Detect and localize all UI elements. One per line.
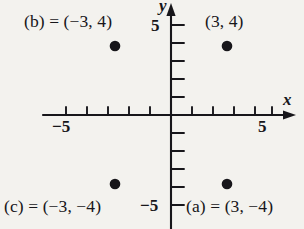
x-axis-ticks-negative xyxy=(66,107,150,115)
data-point-b xyxy=(110,41,121,52)
x-axis-tick-label-5: 5 xyxy=(258,118,267,135)
y-axis-ticks-negative xyxy=(171,133,184,205)
data-point-3-4 xyxy=(222,41,233,52)
point-label-c: (c) = (−3, −4) xyxy=(4,198,101,216)
x-axis-arrowhead xyxy=(283,110,296,119)
x-axis-name: x xyxy=(283,91,292,108)
data-point-a xyxy=(222,179,233,190)
point-label-a: (a) = (3, −4) xyxy=(186,198,273,216)
data-point-c xyxy=(110,179,121,190)
y-axis-tick-label-5: 5 xyxy=(151,17,160,34)
x-axis-tick-label-neg5: −5 xyxy=(52,118,70,135)
y-axis-tick-label-neg5: −5 xyxy=(140,197,158,214)
y-axis-arrowhead xyxy=(166,3,175,16)
point-label-b: (b) = (−3, 4) xyxy=(24,13,112,31)
point-label-3-4: (3, 4) xyxy=(205,13,244,31)
y-axis-ticks-positive xyxy=(171,25,184,97)
coordinate-plane-figure: (b) = (−3, 4) (3, 4) (c) = (−3, −4) (a) … xyxy=(0,0,304,229)
x-axis-ticks-positive xyxy=(192,107,272,115)
y-axis-name: y xyxy=(159,0,167,14)
